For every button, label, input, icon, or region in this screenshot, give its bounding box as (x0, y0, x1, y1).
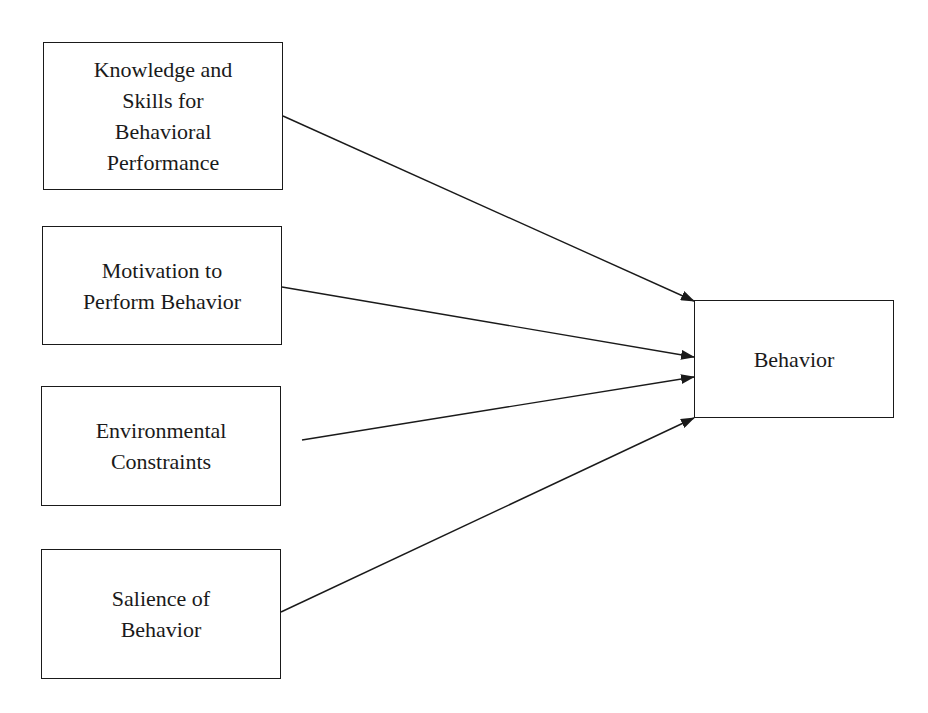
arrow-environment-to-behavior (302, 377, 694, 440)
arrow-knowledge-to-behavior (283, 116, 694, 301)
arrow-motivation-to-behavior (282, 287, 694, 357)
arrows-layer (0, 0, 928, 713)
arrow-salience-to-behavior (281, 418, 694, 612)
